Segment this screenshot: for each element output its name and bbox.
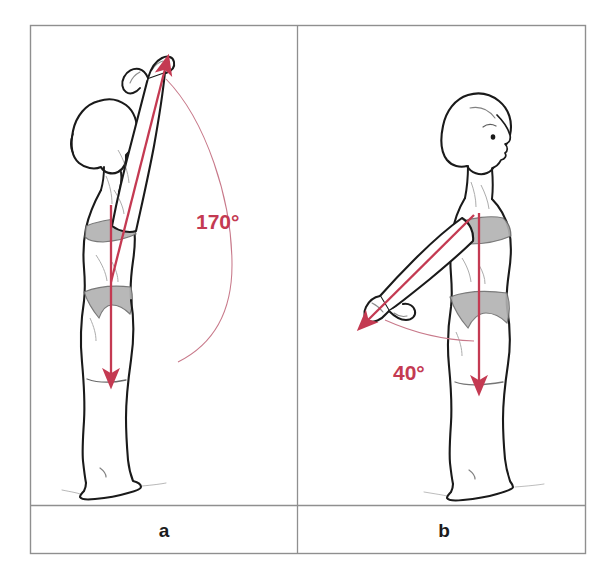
figure-root: 170° a — [0, 0, 609, 576]
panel-b-caption: b — [438, 520, 450, 541]
panel-a-angle-label: 170° — [196, 210, 239, 233]
shoulder-rom-figure: 170° a — [0, 0, 609, 576]
panel-a-caption: a — [159, 520, 170, 541]
panel-b-angle-label: 40° — [393, 361, 425, 384]
